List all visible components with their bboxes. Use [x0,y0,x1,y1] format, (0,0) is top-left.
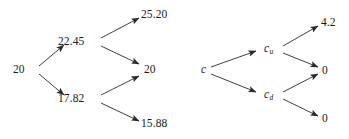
edge-up-up [101,18,139,38]
binomial-tree-figure: 20 22.45 17.82 25.20 20 15.88 c cu cd 4.… [0,0,349,139]
edge-cd-down [283,99,318,116]
option-terminal-ud-label: 0 [322,65,328,77]
stock-terminal-dd-label: 15.88 [141,118,167,130]
edge-up-down [101,46,139,64]
option-terminal-uu-label: 4.2 [321,17,336,29]
edge-root-up [39,45,64,66]
stock-node-down-label: 17.82 [58,93,84,105]
option-node-cu-label: cu [264,43,273,55]
option-root-label: c [201,64,206,76]
stock-tree-edges [39,18,139,121]
edge-cu-down [283,53,318,67]
stock-terminal-uu-label: 25.20 [141,9,167,21]
edge-down-down [101,103,139,121]
edge-c-cd [211,74,256,92]
stock-terminal-ud-label: 20 [144,64,156,76]
tree-edges [0,0,349,139]
edge-cu-up [283,26,318,46]
option-node-cu-subscript: u [269,47,273,56]
edge-cd-up [283,74,318,92]
edge-down-up [101,76,139,95]
stock-node-up-label: 22.45 [58,36,84,48]
edge-c-cu [211,51,256,67]
option-node-cd-label: cd [264,89,273,101]
option-node-cd-subscript: d [269,93,273,102]
stock-root-label: 20 [13,64,25,76]
option-terminal-dd-label: 0 [322,113,328,125]
option-tree-edges [211,26,318,116]
